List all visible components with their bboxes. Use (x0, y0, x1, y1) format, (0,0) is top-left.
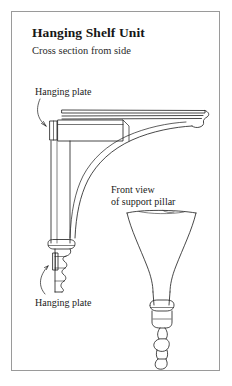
flared-body-right (170, 213, 196, 292)
curved-bracket-brace (75, 126, 192, 238)
shelf-board-underline (62, 116, 203, 117)
cleat-block-right-edge (123, 120, 129, 141)
turned-ring-middle (152, 311, 172, 328)
lower-finial-profile-right (61, 249, 71, 292)
shelf-board-underline-2 (62, 119, 202, 120)
tapered-shaft-right (169, 292, 170, 305)
flared-body-left (127, 213, 153, 292)
finial-bead (154, 339, 169, 351)
front-view-top-rim-inner (139, 212, 184, 214)
shelf-top-board (62, 110, 205, 113)
finial-neck-left (158, 328, 160, 339)
front-view-top-rim (127, 210, 196, 213)
leader-line-hanging-plate-top (38, 99, 46, 126)
technical-drawing (0, 0, 232, 386)
finial-neck-right (165, 328, 167, 339)
illustration-page: Hanging Shelf Unit Cross section from si… (0, 0, 232, 386)
turned-collar (48, 240, 75, 250)
finial-bottom-tip (155, 359, 167, 369)
leader-line-hanging-plate-bottom (40, 266, 48, 294)
tapered-shaft-left (153, 292, 154, 305)
bracket-inner-curve (70, 122, 186, 238)
cleat-block (58, 120, 123, 141)
